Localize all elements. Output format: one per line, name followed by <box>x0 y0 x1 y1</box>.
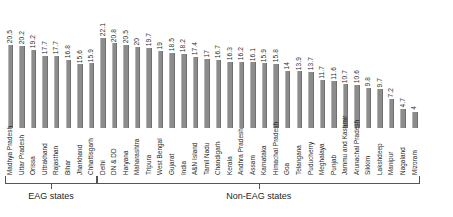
bar-value-label: 9.7 <box>377 78 384 87</box>
bar-value-label: 4 <box>411 106 418 110</box>
bar-value-label: 13.9 <box>296 57 303 70</box>
bar-value-label: 16.3 <box>227 47 234 60</box>
category-tick: Punjab <box>328 129 339 175</box>
bar-slot: 16.8 <box>63 0 74 128</box>
category-tick: DN & DD <box>109 129 120 175</box>
bar[interactable] <box>89 63 95 128</box>
bar-slot: 16.3 <box>224 0 235 128</box>
bar-value-label: 4.7 <box>400 98 407 107</box>
category-label: Himachal Pradesh <box>273 129 279 175</box>
bar-value-label: 20.8 <box>111 29 118 42</box>
category-label: Gujarat <box>169 129 175 175</box>
bar-value-label: 17.4 <box>192 42 199 55</box>
category-tick: Andhra Pradesh <box>236 129 247 175</box>
category-tick: Mizoram <box>409 129 420 175</box>
bar[interactable] <box>285 71 291 128</box>
bar[interactable] <box>227 62 233 128</box>
category-label: Puducherry <box>308 129 314 175</box>
bar[interactable] <box>308 72 314 128</box>
category-tick: Bihar <box>63 129 74 175</box>
bar[interactable] <box>250 62 256 128</box>
bar-value-label: 7.2 <box>388 88 395 97</box>
group-brackets: EAG statesNon-EAG states <box>0 176 453 217</box>
category-tick: Meghalaya <box>317 129 328 175</box>
bar-value-label: 9.8 <box>365 77 372 86</box>
bar[interactable] <box>193 57 199 128</box>
category-label: A&N Island <box>192 129 198 175</box>
bracket-tick <box>259 184 260 189</box>
bar-slot: 16.1 <box>248 0 259 128</box>
category-tick: Maharashtra <box>132 129 143 175</box>
bar[interactable] <box>66 60 72 128</box>
bar-slot: 16.7 <box>213 0 224 128</box>
bar[interactable] <box>19 46 25 128</box>
category-tick: Delhi <box>97 129 108 175</box>
bar[interactable] <box>297 71 303 128</box>
group-eag: EAG states <box>5 176 97 217</box>
bar-slot: 9.7 <box>375 0 386 128</box>
bar[interactable] <box>169 53 175 128</box>
bar-value-label: 15.8 <box>273 49 280 62</box>
bar[interactable] <box>320 80 326 128</box>
category-label: Uttar Pradesh <box>19 129 25 175</box>
category-tick: Goa <box>282 129 293 175</box>
bar-slot: 4.7 <box>398 0 409 128</box>
bar[interactable] <box>100 38 106 128</box>
bar[interactable] <box>181 54 187 128</box>
category-tick: Arunachal Pradesh <box>352 129 363 175</box>
bar[interactable] <box>239 62 245 128</box>
bar-value-label: 16.2 <box>238 47 245 60</box>
bar[interactable] <box>400 109 406 128</box>
category-label: Punjab <box>331 129 337 175</box>
bar[interactable] <box>146 48 152 128</box>
bar[interactable] <box>331 81 337 128</box>
bar-value-label: 16.1 <box>250 48 257 61</box>
bar[interactable] <box>42 56 48 128</box>
bar[interactable] <box>412 112 418 128</box>
category-tick: Tamil Nadu <box>201 129 212 175</box>
category-tick: India <box>178 129 189 175</box>
bar[interactable] <box>77 64 83 128</box>
bar[interactable] <box>158 51 164 128</box>
bar-value-label: 19.7 <box>146 33 153 46</box>
bar[interactable] <box>204 59 210 128</box>
category-label: West Bengal <box>157 129 163 175</box>
bar[interactable] <box>273 64 279 128</box>
bar[interactable] <box>112 43 118 128</box>
bar-value-label: 11.7 <box>319 66 326 79</box>
bar-value-label: 15.6 <box>77 50 84 63</box>
category-axis: Madhya PradeshUttar PradeshOrissaUttrakh… <box>0 129 453 175</box>
bar[interactable] <box>216 60 222 128</box>
bar-slot: 10.6 <box>352 0 363 128</box>
category-label: Haryana <box>123 129 129 175</box>
bar[interactable] <box>123 45 129 128</box>
bar-slot: 13.9 <box>294 0 305 128</box>
category-label: Arunachal Pradesh <box>354 129 360 175</box>
bar[interactable] <box>8 45 14 128</box>
category-label: Uttrakhand <box>42 129 48 175</box>
bar[interactable] <box>31 50 37 128</box>
bar-slot: 20.2 <box>17 0 28 128</box>
category-tick: Gujarat <box>167 129 178 175</box>
bar-value-label: 10.6 <box>354 70 361 83</box>
bar-value-label: 20.2 <box>19 31 26 44</box>
bar[interactable] <box>366 88 372 128</box>
bracket-tick <box>51 184 52 189</box>
category-label: Orissa <box>30 129 36 175</box>
bar[interactable] <box>377 89 383 129</box>
bar-slot: 18.2 <box>178 0 189 128</box>
category-tick: Madhya Pradesh <box>5 129 16 175</box>
category-label: Jharkhand <box>77 129 83 175</box>
bar[interactable] <box>389 99 395 128</box>
category-tick: Lakshdeep <box>375 129 386 175</box>
group-non-eag: Non-EAG states <box>97 176 420 217</box>
bar[interactable] <box>54 56 60 128</box>
bar[interactable] <box>135 47 141 128</box>
bar-slot: 20.8 <box>109 0 120 128</box>
category-label: Mizoram <box>412 129 418 175</box>
bar-value-label: 17 <box>204 50 211 58</box>
bar[interactable] <box>262 63 268 128</box>
bar-slot: 15.9 <box>86 0 97 128</box>
bar-value-label: 15.9 <box>88 49 95 62</box>
bar-slot: 20 <box>132 0 143 128</box>
